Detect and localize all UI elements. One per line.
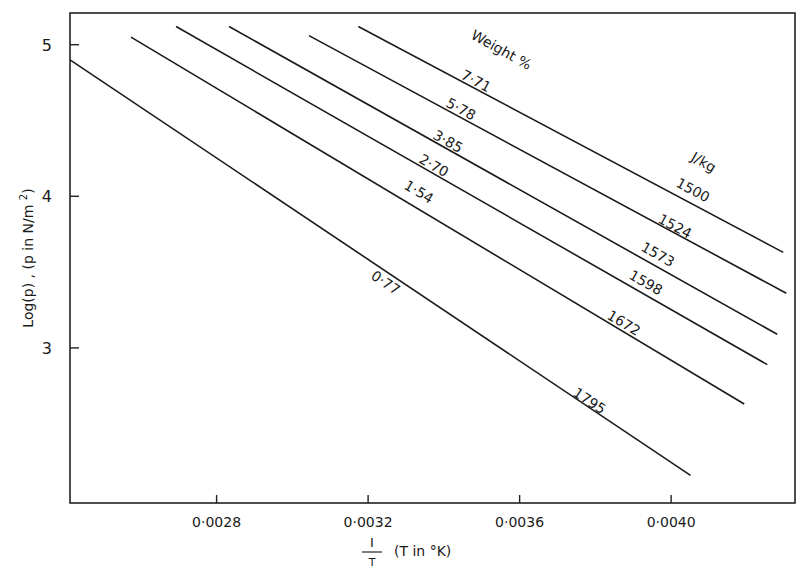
energy-label: 1672 xyxy=(604,307,643,339)
weight-percent-label: 5·78 xyxy=(444,95,479,124)
svg-text:I: I xyxy=(370,535,374,550)
svg-text:Log(p) , (p in N/m 2): Log(p) , (p in N/m 2) xyxy=(18,188,36,327)
svg-text:T: T xyxy=(368,556,376,569)
y-tick-label: 4 xyxy=(42,187,52,206)
energy-unit-header: J/kg xyxy=(688,148,719,175)
weight-percent-label: 2·70 xyxy=(417,151,452,180)
y-tick-label: 3 xyxy=(42,339,52,358)
x-tick-label: 0·0040 xyxy=(647,514,696,530)
series-labels: 0·7717951·5416722·7015983·8515735·781524… xyxy=(368,67,712,418)
x-tick-label: 0·0036 xyxy=(495,514,544,530)
x-axis-ticks: 0·00280·00320·00360·0040 xyxy=(192,495,696,530)
energy-label: 1524 xyxy=(656,211,695,242)
svg-text:(T in °K): (T in °K) xyxy=(394,543,451,559)
x-axis-label: I T (T in °K) xyxy=(362,535,451,569)
energy-label: 1795 xyxy=(570,384,609,417)
y-tick-label: 5 xyxy=(42,36,52,55)
series-lines xyxy=(70,27,786,476)
weight-percent-label: 7·71 xyxy=(459,67,494,96)
series-line xyxy=(229,27,777,335)
energy-label: 1598 xyxy=(627,267,666,299)
weight-percent-header: Weight % xyxy=(469,27,535,73)
x-tick-label: 0·0028 xyxy=(192,514,241,530)
y-axis-ticks: 345 xyxy=(42,36,79,358)
chart: 345 0·00280·00320·00360·0040 0·7717951·5… xyxy=(0,0,811,583)
energy-label: 1573 xyxy=(639,239,678,270)
weight-percent-label: 0·77 xyxy=(368,267,403,298)
energy-label: 1500 xyxy=(674,175,713,206)
plot-frame xyxy=(70,13,795,503)
x-tick-label: 0·0032 xyxy=(344,514,393,530)
y-axis-label: Log(p) , (p in N/m 2) xyxy=(18,188,36,327)
weight-percent-label: 3·85 xyxy=(431,127,466,156)
